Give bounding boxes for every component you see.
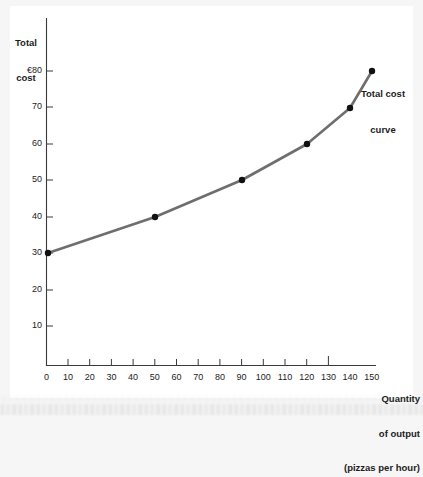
x-tick-label-80: 80 <box>209 372 231 383</box>
x-axis-title-line2: of output <box>318 428 420 440</box>
curve-label-line1: Total cost <box>346 88 420 100</box>
scan-artifact-upper <box>0 396 423 402</box>
x-tick-label-20: 20 <box>79 372 101 383</box>
curve-label-line2: curve <box>346 124 420 136</box>
y-tick-label-20: 20 <box>8 284 42 295</box>
y-tick-label-70: 70 <box>8 101 42 112</box>
x-axis-title-line3: (pizzas per hour) <box>318 462 420 474</box>
x-tick-label-110: 110 <box>274 372 296 383</box>
total-cost-curve-label: Total cost curve <box>346 64 420 160</box>
x-tick-label-50: 50 <box>144 372 166 383</box>
x-tick-label-70: 70 <box>187 372 209 383</box>
x-tick-label-30: 30 <box>100 372 122 383</box>
y-tick-label-30: 30 <box>8 247 42 258</box>
y-tick-label-60: 60 <box>8 138 42 149</box>
x-axis-title: Quantity of output (pizzas per hour) <box>318 370 420 477</box>
x-tick-label-90: 90 <box>231 372 253 383</box>
y-tick-label-80: €80 <box>8 65 42 76</box>
x-tick-label-60: 60 <box>166 372 188 383</box>
y-axis-title: Total cost <box>8 14 44 106</box>
scan-artifact-strip <box>0 404 423 415</box>
x-tick-label-100: 100 <box>252 372 274 383</box>
y-tick-label-10: 10 <box>8 320 42 331</box>
y-axis-title-line1: Total <box>8 37 44 49</box>
x-tick-label-40: 40 <box>122 372 144 383</box>
x-tick-label-10: 10 <box>57 372 79 383</box>
x-tick-label-120: 120 <box>296 372 318 383</box>
y-tick-label-50: 50 <box>8 174 42 185</box>
x-tick-label-0: 0 <box>36 372 58 383</box>
y-tick-label-40: 40 <box>8 211 42 222</box>
